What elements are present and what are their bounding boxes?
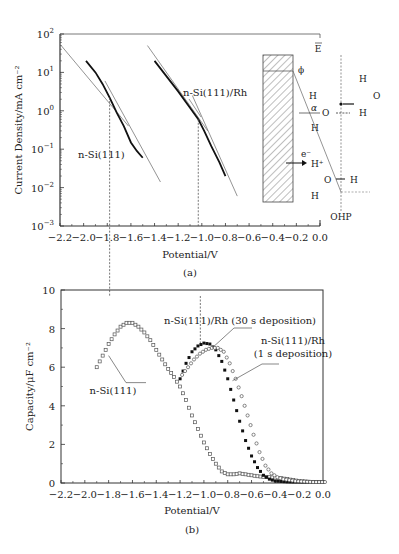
x-axis-label: Potential/V (164, 505, 220, 516)
electron-label: e⁻ (301, 149, 311, 159)
x-tick-label: −0.2 (284, 232, 308, 243)
svg-text:O: O (322, 108, 329, 118)
annotation-n-si: n-Si(111) (78, 149, 125, 160)
series-n-si-rh-30s (179, 342, 325, 484)
chart-b: −2.2−2.0−1.8−1.6−1.4−1.2−1.0−0.8−0.6−0.4… (24, 285, 332, 535)
x-tick-label: −2.0 (71, 232, 95, 243)
y-tick-label: 10 (42, 285, 55, 296)
electrode-hatched (263, 55, 293, 202)
x-tick-label: −1.0 (190, 232, 214, 243)
x-axis-label: Potential/V (162, 249, 218, 260)
x-tick-label: −2.2 (49, 489, 73, 500)
x-tick-label: −2.0 (73, 489, 97, 500)
svg-text:H: H (309, 91, 317, 101)
arrow-icon (302, 160, 307, 166)
y-tick-label: 10−1 (31, 142, 54, 155)
x-tick-label: −1.4 (142, 232, 166, 243)
x-tick-label: −0.8 (213, 232, 237, 243)
x-tick-label: −1.0 (192, 489, 216, 500)
x-tick-label: −0.4 (263, 489, 287, 500)
x-tick-label: −0.6 (237, 232, 261, 243)
annotation-1s-deposition: (1 s deposition) (254, 348, 333, 359)
y-axis-label: Current Density/mA cm⁻² (13, 65, 24, 194)
tafel-fit-line (105, 81, 161, 182)
y-tick-label: 10−3 (31, 219, 54, 232)
alpha-label: α (311, 103, 317, 113)
svg-text:O: O (324, 175, 331, 185)
y-tick-label: 4 (49, 401, 55, 412)
svg-text:H: H (359, 74, 367, 84)
svg-text:H: H (350, 175, 358, 185)
panel-label-b: (b) (185, 524, 199, 535)
y-tick-label: 101 (37, 65, 54, 78)
annotation-n-si-rh-1s: n-Si(111)/Rh (261, 335, 326, 346)
annotation-n-si: n-Si(111) (90, 385, 137, 396)
y-tick-label: 100 (37, 104, 54, 117)
x-tick-label: −0.2 (287, 489, 311, 500)
y-tick-label: 2 (49, 439, 55, 450)
svg-text:H⁺: H⁺ (311, 159, 324, 169)
svg-text:H: H (359, 108, 367, 118)
figure: −2.2−2.0−1.8−1.6−1.4−1.2−1.0−0.8−0.6−0.4… (0, 0, 399, 554)
panel-label-a: (a) (183, 267, 197, 278)
y-tick-label: 6 (49, 362, 55, 373)
x-tick-label: −1.6 (120, 489, 144, 500)
tafel-fit-line (192, 96, 237, 197)
x-tick-label: −1.8 (95, 232, 119, 243)
x-tick-label: −1.4 (144, 489, 168, 500)
annotation-n-si-rh: n-Si(111)/Rh (183, 87, 248, 98)
phi-label: ϕ (298, 65, 304, 75)
series-n-si (86, 61, 143, 158)
y-tick-label: 8 (49, 324, 55, 335)
y-tick-label: 102 (37, 27, 54, 40)
chart-a: −2.2−2.0−1.8−1.6−1.4−1.2−1.0−0.8−0.6−0.4… (13, 27, 380, 296)
ohp-label: OHP (330, 212, 351, 222)
series-n-si-rh (155, 61, 226, 176)
x-tick-label: −1.8 (96, 489, 120, 500)
x-tick-label: 0.0 (312, 232, 328, 243)
x-tick-label: −1.6 (119, 232, 143, 243)
x-tick-label: −0.4 (261, 232, 285, 243)
svg-text:H: H (311, 123, 319, 133)
svg-text:H: H (311, 191, 319, 201)
x-tick-label: −2.2 (48, 232, 72, 243)
field-label-e: E (315, 44, 322, 54)
x-tick-label: −1.2 (168, 489, 192, 500)
x-tick-label: −0.8 (216, 489, 240, 500)
x-tick-label: −1.2 (166, 232, 190, 243)
svg-text:O: O (373, 91, 380, 101)
y-tick-label: 10−2 (31, 181, 54, 194)
x-tick-label: −0.6 (239, 489, 263, 500)
annotation-n-si-rh-30s: n-Si(111)/Rh (30 s deposition) (164, 315, 316, 326)
x-tick-label: 0.0 (315, 489, 331, 500)
y-tick-label: 0 (49, 478, 55, 489)
y-axis-label: Capacity/μF cm⁻² (24, 342, 35, 431)
